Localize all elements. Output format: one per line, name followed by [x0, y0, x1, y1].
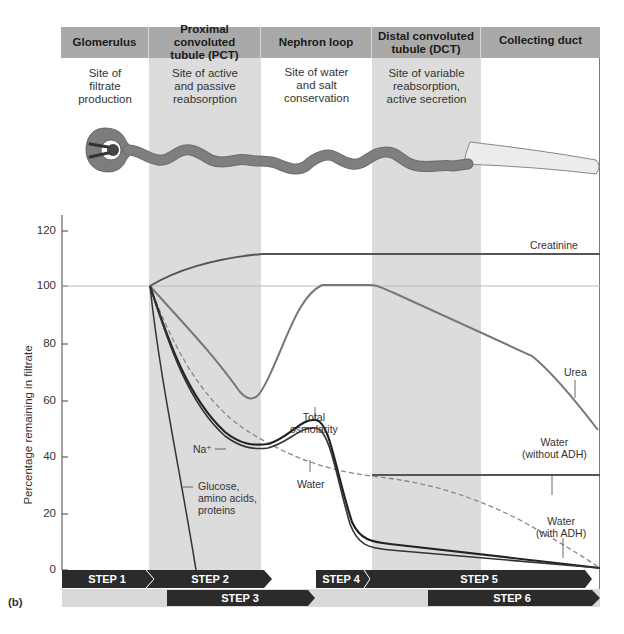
curve-na: [150, 286, 600, 568]
y-axis-ticks: [62, 231, 68, 570]
y-tick-120: 120: [26, 224, 56, 236]
label-na: Na⁺: [193, 443, 212, 455]
step-5: STEP 5: [370, 570, 588, 588]
step-4: STEP 4: [316, 570, 366, 588]
step-2: STEP 2: [152, 570, 268, 588]
label-urea: Urea: [564, 366, 587, 378]
label-glucose: Glucose, amino acids, proteins: [198, 480, 257, 516]
label-creatinine: Creatinine: [530, 239, 578, 251]
curve-urea: [150, 285, 598, 430]
y-axis-label: Percentage remaining in filtrate: [22, 345, 34, 504]
y-tick-100: 100: [26, 279, 56, 291]
panel-label: (b): [8, 596, 23, 608]
step-6: STEP 6: [428, 589, 596, 607]
label-water-with-adh: Water (with ADH): [536, 515, 586, 539]
step-1: STEP 1: [62, 570, 152, 588]
y-tick-0: 0: [26, 563, 56, 575]
label-water: Water: [297, 478, 325, 490]
label-leader-lines: [183, 380, 575, 558]
label-total-osmolarity: Total osmolarity: [290, 411, 338, 435]
curve-creatinine: [150, 254, 600, 286]
nephron-chart-svg: [0, 0, 624, 634]
collecting-duct-shape: [464, 142, 599, 174]
y-tick-20: 20: [26, 507, 56, 519]
label-water-without-adh: Water (without ADH): [522, 436, 587, 460]
curve-water: [150, 286, 600, 568]
nephron-illustration: [86, 126, 599, 174]
step-3: STEP 3: [167, 589, 313, 607]
curve-total-osmolarity: [150, 286, 600, 568]
